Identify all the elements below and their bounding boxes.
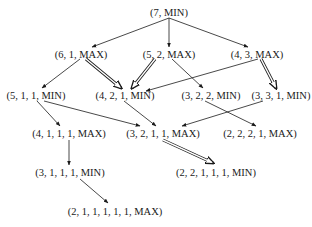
nodes-layer: (7, MIN)(6, 1, MAX)(5, 2, MAX)(4, 3, MAX… <box>7 7 311 218</box>
edge-arrow <box>182 101 263 126</box>
tree-node-n61: (6, 1, MAX) <box>55 49 108 61</box>
edge-arrow <box>44 101 140 126</box>
edge-arrow <box>37 101 60 126</box>
edge-arrow <box>205 101 256 126</box>
edge-arrow <box>92 18 169 47</box>
tree-node-n511: (5, 1, 1, MIN) <box>7 90 66 102</box>
tree-node-n31111: (3, 1, 1, 1, MIN) <box>35 167 105 179</box>
tree-node-n421: (4, 2, 1, MIN) <box>96 90 155 102</box>
edge-arrow <box>169 18 248 47</box>
edge-double-arrow <box>86 59 121 88</box>
tree-node-n43: (4, 3, MAX) <box>231 49 284 61</box>
tree-node-n211111: (2, 1, 1, 1, 1, 1, MAX) <box>68 206 163 218</box>
tree-node-n3211: (3, 2, 1, 1, MAX) <box>126 128 200 140</box>
tree-node-n7: (7, MIN) <box>150 7 188 19</box>
edge-arrow <box>80 179 108 203</box>
tree-node-n2221: (2, 2, 2, 1, MAX) <box>223 128 297 140</box>
tree-node-n322: (3, 2, 2, MIN) <box>182 90 241 102</box>
edge-arrow <box>172 59 203 88</box>
edge-arrow <box>124 101 156 126</box>
tree-node-n52: (5, 2, MAX) <box>143 49 196 61</box>
tree-node-n4111: (4, 1, 1, 1, MAX) <box>32 128 106 140</box>
tree-node-n331: (3, 3, 1, MIN) <box>252 90 311 102</box>
game-tree-diagram: (7, MIN)(6, 1, MAX)(5, 2, MAX)(4, 3, MAX… <box>0 0 312 227</box>
edge-arrow <box>42 59 80 88</box>
edge-double-arrow <box>261 59 276 88</box>
edge-double-arrow <box>163 140 213 163</box>
edge-double-arrow <box>132 59 155 88</box>
tree-node-n22111: (2, 2, 1, 1, 1, MIN) <box>176 167 256 179</box>
edge-arrow <box>146 59 258 91</box>
